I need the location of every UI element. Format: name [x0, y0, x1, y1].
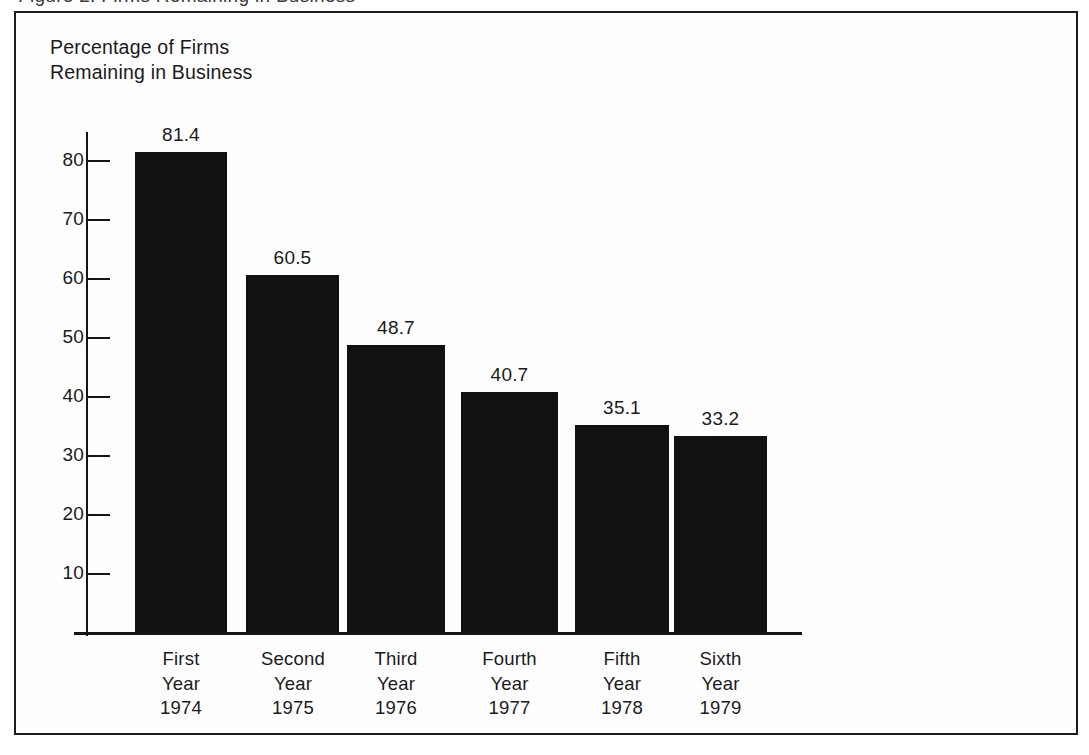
y-axis-tick-50 — [88, 337, 110, 339]
bar-third-year-1976[interactable] — [347, 345, 445, 632]
figure-frame: Percentage of Firms Remaining in Busines… — [14, 11, 1078, 735]
y-axis-label-30: 30 — [24, 444, 84, 466]
x-axis-label-fifth-year: Fifth Year 1978 — [568, 647, 676, 721]
y-axis-tick-60 — [88, 278, 110, 280]
bar-second-year-1975[interactable] — [246, 275, 339, 632]
y-axis-label-20: 20 — [24, 503, 84, 525]
x-axis-label-sixth-year: Sixth Year 1979 — [667, 647, 774, 721]
bar-first-year-1974[interactable] — [135, 152, 227, 632]
y-axis-line — [86, 132, 88, 636]
y-axis-label-60: 60 — [24, 267, 84, 289]
y-axis-tick-20 — [88, 514, 110, 516]
bar-value-label-1978: 35.1 — [575, 397, 669, 419]
bar-fourth-year-1977[interactable] — [461, 392, 558, 632]
bar-value-label-1976: 48.7 — [347, 317, 445, 339]
y-axis-tick-70 — [88, 219, 110, 221]
y-axis-label-40: 40 — [24, 385, 84, 407]
bar-chart-plot-area: 80 70 60 50 40 30 20 10 81.4 60.5 48.7 4… — [16, 13, 1080, 737]
page-bleed-strip: Figure 2. Firms Remaining in Business — [0, 0, 1089, 9]
bar-value-label-1974: 81.4 — [135, 124, 227, 146]
bar-sixth-year-1979[interactable] — [674, 436, 767, 632]
cut-off-caption-text: Figure 2. Firms Remaining in Business — [18, 0, 355, 7]
bar-fifth-year-1978[interactable] — [575, 425, 669, 632]
y-axis-tick-10 — [88, 573, 110, 575]
x-axis-label-third-year: Third Year 1976 — [342, 647, 450, 721]
x-axis-line — [74, 632, 802, 635]
bar-value-label-1975: 60.5 — [246, 247, 339, 269]
bar-value-label-1979: 33.2 — [674, 408, 767, 430]
y-axis-label-10: 10 — [24, 562, 84, 584]
x-axis-label-second-year: Second Year 1975 — [238, 647, 348, 721]
y-axis-label-80: 80 — [24, 149, 84, 171]
x-axis-label-fourth-year: Fourth Year 1977 — [455, 647, 564, 721]
y-axis-tick-80 — [88, 160, 110, 162]
y-axis-label-70: 70 — [24, 208, 84, 230]
x-axis-label-first-year: First Year 1974 — [127, 647, 235, 721]
y-axis-label-50: 50 — [24, 326, 84, 348]
bar-value-label-1977: 40.7 — [461, 364, 558, 386]
y-axis-tick-40 — [88, 396, 110, 398]
y-axis-tick-30 — [88, 455, 110, 457]
